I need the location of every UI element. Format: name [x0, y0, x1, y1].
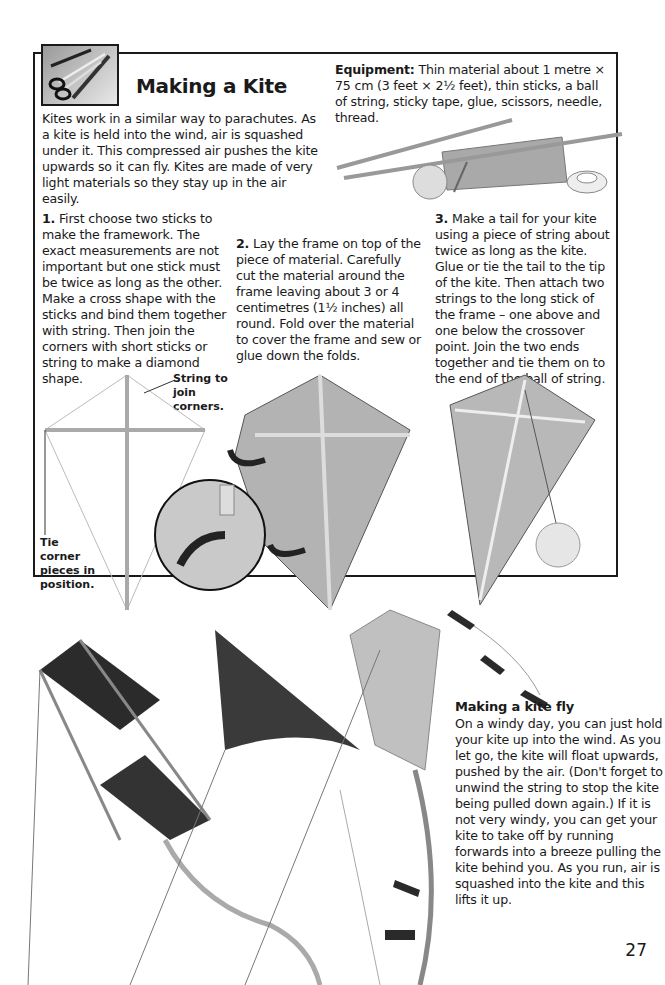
- equipment-illustration: [332, 112, 622, 202]
- step-1-text: First choose two sticks to make the fram…: [42, 211, 226, 386]
- step-1-number: 1.: [42, 211, 55, 226]
- step-2-number: 2.: [236, 236, 249, 251]
- step-2: 2. Lay the frame on top of the piece of …: [236, 236, 422, 364]
- fly-heading: Making a kite fly: [455, 699, 665, 715]
- equipment-label: Equipment:: [335, 62, 415, 77]
- step-3-text: Make a tail for your kite using a piece …: [435, 211, 610, 386]
- step-1: 1. First choose two sticks to make the f…: [42, 211, 227, 387]
- step-3-number: 3.: [435, 211, 448, 226]
- step-2-text: Lay the frame on top of the piece of mat…: [236, 236, 421, 363]
- scissors-pencil-icon: [41, 44, 119, 106]
- page-title: Making a Kite: [136, 74, 287, 98]
- page-number: 27: [625, 940, 647, 960]
- tailed-kite-diagram: [440, 375, 610, 605]
- intro-paragraph: Kites work in a similar way to parachute…: [42, 111, 322, 207]
- glue-detail-circle: [150, 475, 270, 595]
- step-3: 3. Make a tail for your kite using a pie…: [435, 211, 615, 387]
- fly-paragraph: On a windy day, you can just hold your k…: [455, 716, 665, 908]
